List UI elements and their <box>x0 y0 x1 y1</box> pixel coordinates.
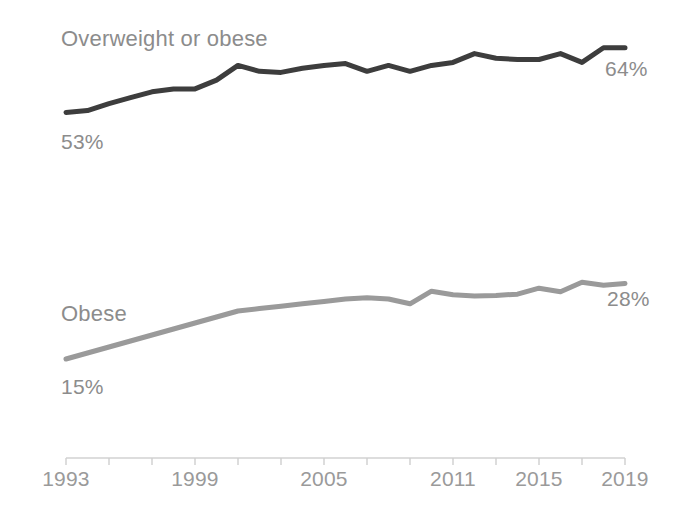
line-series-overweight-or-obese <box>66 48 625 113</box>
series-label-obese: Obese <box>61 303 127 325</box>
series-end-value-obese: 28% <box>607 288 650 309</box>
x-axis-label-1993: 1993 <box>42 468 90 489</box>
chart-plot-area <box>0 0 688 531</box>
series-start-value-overweight-or-obese: 53% <box>61 131 104 152</box>
x-axis-ticks <box>66 458 625 465</box>
x-axis-label-2019: 2019 <box>601 468 649 489</box>
chart-container: Overweight or obese 53% 64% Obese 15% 28… <box>0 0 688 531</box>
series-end-value-overweight-or-obese: 64% <box>605 58 648 79</box>
x-axis-label-2011: 2011 <box>430 468 476 489</box>
line-series-obese <box>66 282 625 359</box>
x-axis-label-1999: 1999 <box>171 468 219 489</box>
series-label-overweight-or-obese: Overweight or obese <box>61 28 268 50</box>
series-start-value-obese: 15% <box>61 376 104 397</box>
x-axis-label-2005: 2005 <box>300 468 348 489</box>
x-axis-label-2015: 2015 <box>515 468 563 489</box>
